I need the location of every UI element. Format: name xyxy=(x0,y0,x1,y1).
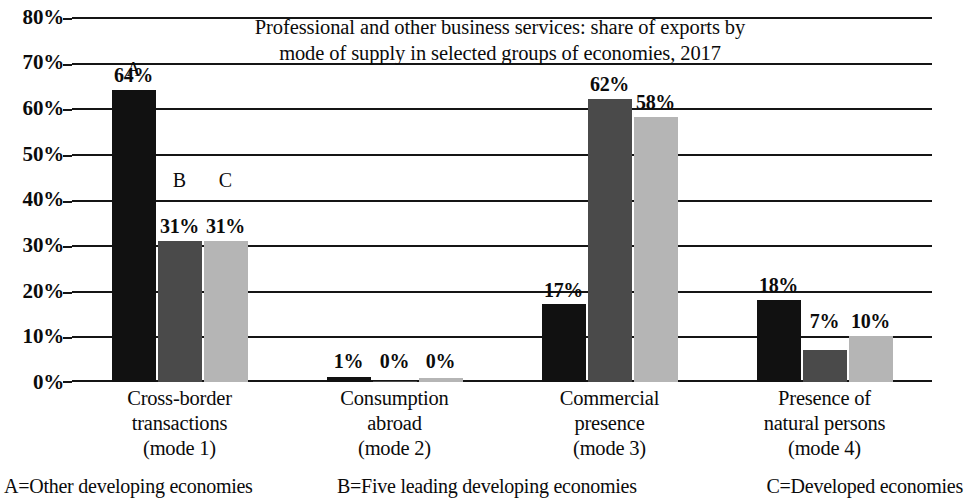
bar-value-cross-border-c: 31% xyxy=(206,216,245,236)
category-label-mode-4-line-3: (mode 4) xyxy=(717,436,932,461)
category-label-mode-4-line-2: natural persons xyxy=(717,411,932,436)
bar-value-commercial-a: 17% xyxy=(544,280,583,300)
series-key-b: B xyxy=(173,170,186,190)
series-key-c: C xyxy=(219,170,232,190)
bar-group-mode-3: 17% 62% 58% xyxy=(502,17,717,382)
bar-consumption-b[interactable]: 0% xyxy=(373,17,417,382)
bar-value-consumption-b: 0% xyxy=(380,351,409,371)
bar-value-commercial-b: 62% xyxy=(590,74,629,94)
bar-cross-border-c[interactable]: C 31% xyxy=(204,17,248,382)
category-label-mode-2-line-1: Consumption xyxy=(287,386,502,411)
bar-natural-persons-b[interactable]: 7% xyxy=(803,17,847,382)
bar-natural-persons-c[interactable]: 10% xyxy=(849,17,893,382)
bar-group-mode-2: 1% 0% 0% xyxy=(287,17,502,382)
bar-commercial-c[interactable]: 58% xyxy=(634,17,678,382)
bar-value-cross-border-a: 64% xyxy=(114,65,153,85)
category-label-mode-1-line-1: Cross-border xyxy=(72,386,287,411)
category-label-mode-1-line-3: (mode 1) xyxy=(72,436,287,461)
y-tick-label-30: 30% xyxy=(23,235,64,256)
chart-title-line-2: mode of supply in selected groups of eco… xyxy=(200,40,800,66)
legend-item-b: B=Five leading developing economies xyxy=(337,476,637,496)
category-label-mode-2-line-2: abroad xyxy=(287,411,502,436)
y-tick-label-20: 20% xyxy=(23,281,64,302)
legend: A=Other developing economies B=Five lead… xyxy=(0,472,965,504)
bar-value-consumption-c: 0% xyxy=(426,351,455,371)
legend-item-a: A=Other developing economies xyxy=(4,476,253,496)
bar-group-mode-4: 18% 7% 10% xyxy=(717,17,932,382)
y-tick-label-10: 10% xyxy=(23,326,64,347)
y-tick-label-40: 40% xyxy=(23,189,64,210)
bar-value-natural-persons-c: 10% xyxy=(851,311,890,331)
category-label-mode-3-line-3: (mode 3) xyxy=(502,436,717,461)
bar-value-consumption-a: 1% xyxy=(334,351,363,371)
bar-groups: A 64% B 31% C 31% xyxy=(72,17,932,382)
x-axis-category-labels: Cross-border transactions (mode 1) Consu… xyxy=(72,386,932,464)
category-label-mode-3-line-1: Commercial xyxy=(502,386,717,411)
y-tick-label-0: 0% xyxy=(33,372,64,393)
category-label-mode-4-line-1: Presence of xyxy=(717,386,932,411)
bar-group-mode-1: A 64% B 31% C 31% xyxy=(72,17,287,382)
category-label-mode-2-line-3: (mode 2) xyxy=(287,436,502,461)
category-label-mode-1: Cross-border transactions (mode 1) xyxy=(72,386,287,464)
y-tick-label-50: 50% xyxy=(23,144,64,165)
chart-title-line-1: Professional and other business services… xyxy=(200,14,800,40)
bar-cross-border-b[interactable]: B 31% xyxy=(158,17,202,382)
category-label-mode-3-line-2: presence xyxy=(502,411,717,436)
y-tick-label-70: 70% xyxy=(23,52,64,73)
category-label-mode-1-line-2: transactions xyxy=(72,411,287,436)
bar-value-natural-persons-a: 18% xyxy=(759,275,798,295)
bar-value-cross-border-b: 31% xyxy=(160,216,199,236)
category-label-mode-3: Commercial presence (mode 3) xyxy=(502,386,717,464)
bar-cross-border-a[interactable]: A 64% xyxy=(112,17,156,382)
category-label-mode-4: Presence of natural persons (mode 4) xyxy=(717,386,932,464)
legend-item-c: C=Developed economies xyxy=(766,476,963,496)
category-label-mode-2: Consumption abroad (mode 2) xyxy=(287,386,502,464)
chart-title: Professional and other business services… xyxy=(200,14,800,66)
y-tick-label-80: 80% xyxy=(23,7,64,28)
bar-chart: 80% 70% 60% 50% 40% 30% 20% 10% 0% A 64% xyxy=(0,0,965,504)
plot-area: A 64% B 31% C 31% xyxy=(72,17,932,382)
y-tick-label-60: 60% xyxy=(23,98,64,119)
bar-value-natural-persons-b: 7% xyxy=(810,311,839,331)
bar-commercial-a[interactable]: 17% xyxy=(542,17,586,382)
y-axis: 80% 70% 60% 50% 40% 30% 20% 10% 0% xyxy=(0,0,72,400)
bar-natural-persons-a[interactable]: 18% xyxy=(757,17,801,382)
bar-consumption-a[interactable]: 1% xyxy=(327,17,371,382)
bar-commercial-b[interactable]: 62% xyxy=(588,17,632,382)
bar-value-commercial-c: 58% xyxy=(636,92,675,112)
bar-consumption-c[interactable]: 0% xyxy=(419,17,463,382)
